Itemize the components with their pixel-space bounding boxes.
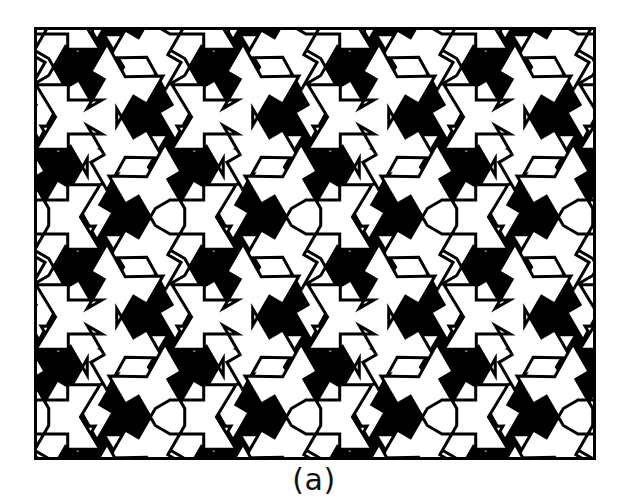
tile-group: [34, 27, 596, 460]
tessellation-canvas: [34, 27, 596, 460]
figure-caption: (a): [0, 462, 628, 498]
figure-root: (a): [0, 0, 628, 501]
tessellation-plate: [34, 27, 596, 460]
